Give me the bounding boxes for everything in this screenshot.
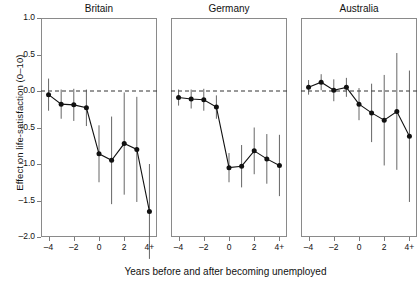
data-point	[97, 151, 102, 156]
x-tick-label: –4	[304, 242, 313, 252]
y-tick-label: 1.0	[23, 12, 35, 22]
x-axis: –4–2024+	[41, 237, 157, 253]
x-tick-label: 0	[227, 242, 232, 252]
data-point	[331, 88, 336, 93]
x-tick-label: 4+	[275, 242, 285, 252]
data-point	[84, 105, 89, 110]
x-tick-mark	[204, 237, 205, 241]
panel-title-britain: Britain	[41, 3, 157, 14]
x-tick-mark	[229, 237, 230, 241]
x-tick-label: –2	[199, 242, 208, 252]
x-tick-mark	[49, 237, 50, 241]
data-point	[357, 102, 362, 107]
data-point	[59, 102, 64, 107]
panel-germany: Germany	[171, 18, 287, 237]
x-tick-label: –4	[174, 242, 183, 252]
series-australia	[301, 18, 417, 237]
y-tick-label: –1.5	[18, 195, 35, 205]
x-tick-mark	[309, 237, 310, 241]
series-germany	[171, 18, 287, 237]
y-tick-label: 0.5	[23, 49, 35, 59]
plot-area-britain	[41, 18, 157, 237]
y-axis: 1.00.50.0–0.5–1.0–1.5–2.0	[0, 18, 41, 237]
plot-area-germany	[171, 18, 287, 237]
x-tick-mark	[74, 237, 75, 241]
data-point	[344, 85, 349, 90]
data-point	[264, 156, 269, 161]
data-point	[319, 80, 324, 85]
data-point	[201, 97, 206, 102]
x-tick-mark	[409, 237, 410, 241]
x-tick-label: 4+	[405, 242, 415, 252]
data-point	[369, 110, 374, 115]
data-point	[407, 134, 412, 139]
plot-area-australia	[301, 18, 417, 237]
data-point	[147, 209, 152, 214]
data-point	[227, 165, 232, 170]
data-point	[239, 164, 244, 169]
panel-title-australia: Australia	[301, 3, 417, 14]
y-tick-label: –2.0	[18, 231, 35, 241]
x-tick-label: 4+	[145, 242, 155, 252]
data-point	[122, 141, 127, 146]
x-tick-mark	[384, 237, 385, 241]
x-axis-label: Years before and after becoming unemploy…	[0, 266, 419, 277]
x-axis-label-text: Years before and after becoming unemploy…	[125, 266, 327, 277]
x-tick-label: –2	[69, 242, 78, 252]
x-axis: –4–2024+	[171, 237, 287, 253]
x-tick-mark	[179, 237, 180, 241]
panel-title-germany: Germany	[171, 3, 287, 14]
y-tick-label: 0.0	[23, 85, 35, 95]
chart-figure: Effect on life-satisfaction (0–10) 1.00.…	[0, 0, 419, 284]
x-tick-label: 0	[357, 242, 362, 252]
data-point	[277, 163, 282, 168]
x-tick-label: –2	[329, 242, 338, 252]
data-point	[176, 95, 181, 100]
data-point	[71, 102, 76, 107]
data-point	[214, 105, 219, 110]
x-tick-mark	[359, 237, 360, 241]
x-tick-mark	[124, 237, 125, 241]
panel-australia: Australia	[301, 18, 417, 237]
x-tick-mark	[99, 237, 100, 241]
x-tick-mark	[279, 237, 280, 241]
data-point	[306, 85, 311, 90]
x-tick-label: 0	[97, 242, 102, 252]
series-britain	[41, 18, 157, 237]
data-point	[46, 92, 51, 97]
data-point	[189, 97, 194, 102]
data-point	[252, 148, 257, 153]
y-tick-label: –1.0	[18, 158, 35, 168]
x-tick-label: –4	[44, 242, 53, 252]
data-point	[394, 109, 399, 114]
x-tick-label: 2	[382, 242, 387, 252]
x-tick-mark	[334, 237, 335, 241]
data-point	[382, 118, 387, 123]
x-axis: –4–2024+	[301, 237, 417, 253]
x-tick-mark	[254, 237, 255, 241]
panel-britain: Britain	[41, 18, 157, 237]
x-tick-label: 2	[252, 242, 257, 252]
x-tick-mark	[149, 237, 150, 241]
data-point	[134, 147, 139, 152]
data-point	[109, 158, 114, 163]
y-tick-label: –0.5	[18, 122, 35, 132]
x-tick-label: 2	[122, 242, 127, 252]
